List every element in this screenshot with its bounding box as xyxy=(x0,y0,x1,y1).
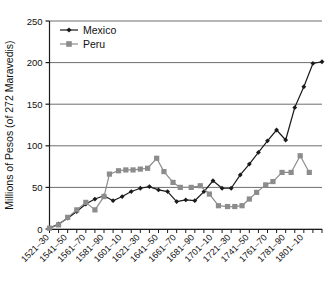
data-point-marker xyxy=(198,183,203,188)
data-point-marker xyxy=(289,170,294,175)
y-tick-label: 50 xyxy=(32,182,43,193)
data-point-marker xyxy=(307,170,312,175)
data-point-marker xyxy=(101,194,106,199)
data-point-marker xyxy=(65,215,70,220)
data-point-marker xyxy=(145,166,150,171)
data-point-marker xyxy=(56,222,61,227)
y-tick-label: 250 xyxy=(27,16,43,27)
y-tick-label: 100 xyxy=(27,140,43,151)
data-point-marker xyxy=(239,203,244,208)
data-point-marker xyxy=(207,191,212,196)
data-point-marker xyxy=(232,204,237,209)
data-point-marker xyxy=(247,196,252,201)
data-point-marker xyxy=(123,167,128,172)
y-tick-label: 200 xyxy=(27,57,43,68)
data-point-marker xyxy=(130,167,135,172)
data-point-marker xyxy=(254,190,259,195)
data-point-marker xyxy=(189,185,194,190)
data-point-marker xyxy=(225,204,230,209)
y-tick-label: 150 xyxy=(27,99,43,110)
data-point-marker xyxy=(74,207,79,212)
data-point-marker xyxy=(279,170,284,175)
data-point-marker xyxy=(154,156,159,161)
data-point-marker xyxy=(47,226,52,231)
data-point-marker xyxy=(216,203,221,208)
data-point-marker xyxy=(263,182,268,187)
data-point-marker xyxy=(83,200,88,205)
data-point-marker xyxy=(116,168,121,173)
data-point-marker xyxy=(138,166,143,171)
y-tick-label: 0 xyxy=(37,224,42,235)
data-point-marker xyxy=(161,169,166,174)
data-point-marker xyxy=(270,179,275,184)
legend-label: Mexico xyxy=(83,24,116,36)
data-point-marker xyxy=(178,185,183,190)
data-point-marker xyxy=(92,207,97,212)
data-point-marker xyxy=(170,180,175,185)
legend-marker-square-icon xyxy=(66,41,72,47)
y-axis-label: Millions of Pesos (of 272 Maravedis) xyxy=(3,40,15,209)
legend-label: Peru xyxy=(83,38,105,50)
chart-figure: 050100150200250 1521–301541–501561–70158… xyxy=(0,0,333,283)
quarterly-silver-line-chart: 050100150200250 1521–301541–501561–70158… xyxy=(0,0,333,283)
data-point-marker xyxy=(298,153,303,158)
data-point-marker xyxy=(107,171,112,176)
